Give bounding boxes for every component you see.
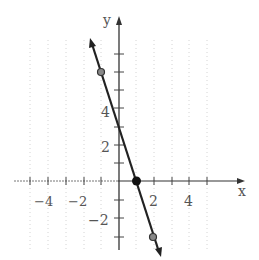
x-tick-label-2: 2	[149, 193, 158, 209]
line-arrow-up-icon	[89, 38, 96, 48]
x-tick-label-neg2: −2	[68, 194, 87, 209]
x-axis: x −4 −2 2 4	[14, 177, 246, 209]
y-tick-label-2: 2	[101, 139, 110, 155]
y-tick-label-neg2: −2	[88, 212, 109, 228]
y-axis-label: y	[102, 12, 111, 28]
x-axis-label: x	[238, 183, 246, 199]
point-neg1-6	[98, 69, 105, 76]
x-tick-label-neg4: −4	[34, 194, 53, 209]
line-arrow-down-icon	[155, 247, 162, 257]
point-2-neg3	[150, 234, 157, 241]
y-tick-label-4: 4	[101, 104, 110, 120]
point-1-0	[132, 177, 141, 186]
coordinate-plane: x −4 −2 2 4 y 4 2 −2	[0, 0, 259, 260]
y-axis-arrow-icon	[116, 16, 122, 25]
x-tick-label-4: 4	[184, 193, 193, 209]
